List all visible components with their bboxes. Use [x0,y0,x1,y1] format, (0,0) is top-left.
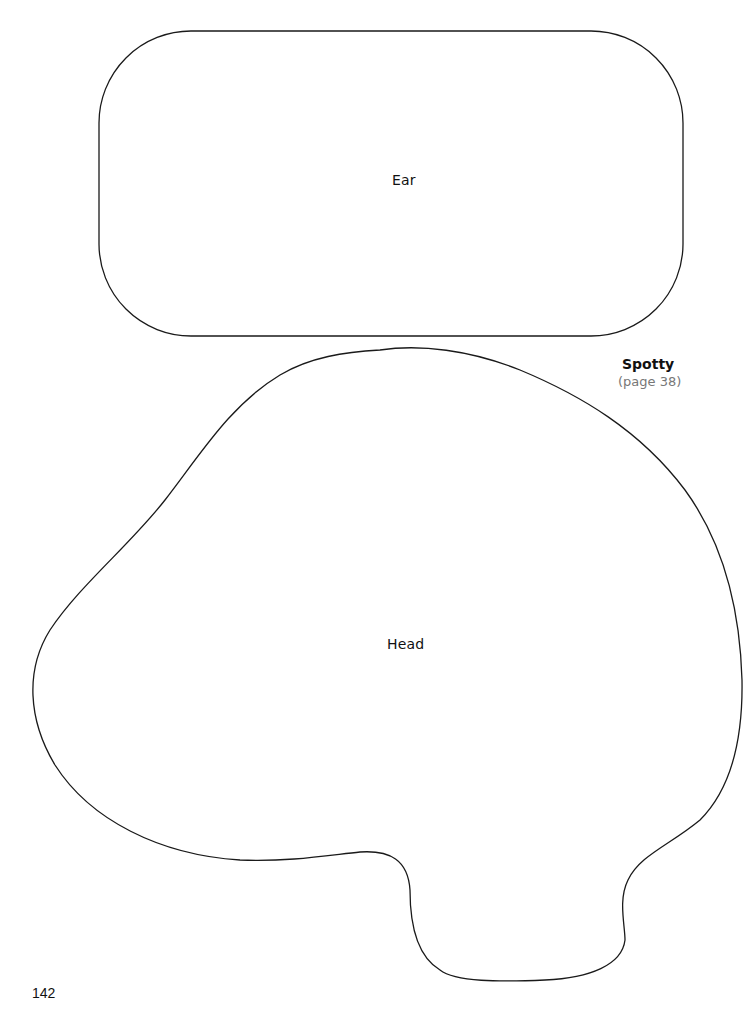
pattern-canvas [0,0,749,1036]
ear-pattern-outline [99,31,683,336]
head-label: Head [387,636,424,652]
project-title: Spotty [622,356,674,372]
project-page-reference: (page 38) [618,374,681,389]
head-pattern-outline [33,348,742,981]
ear-label: Ear [392,172,416,188]
page-number: 142 [32,985,55,1001]
